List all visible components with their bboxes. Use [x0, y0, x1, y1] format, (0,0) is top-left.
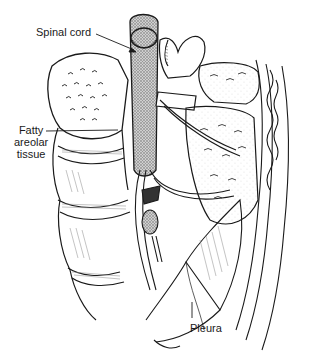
spinal-cord-drawing [130, 15, 158, 177]
vertebral-body [48, 53, 128, 139]
label-fatty-areolar-tissue: Fatty areolar tissue [14, 124, 48, 160]
vertebral-column [53, 128, 130, 320]
anatomical-illustration: Spinal cord Fatty areolar tissue Pleura [0, 0, 313, 358]
label-spinal-cord: Spinal cord [36, 26, 91, 38]
label-areolar: areolar [14, 136, 48, 148]
paraspinal-muscle [186, 63, 259, 224]
label-tissue: tissue [14, 148, 48, 160]
label-pleura: Pleura [190, 322, 222, 334]
transverse-process [156, 37, 205, 110]
label-fatty: Fatty [14, 124, 48, 136]
line-art-drawing [0, 0, 313, 358]
